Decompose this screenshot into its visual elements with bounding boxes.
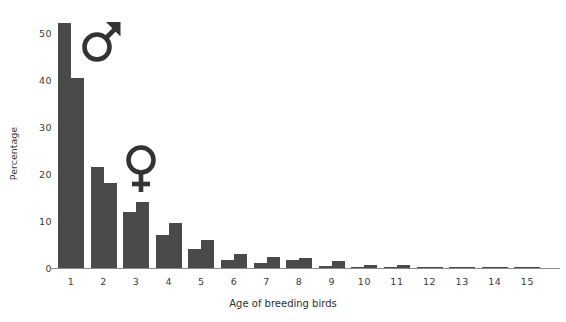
x-axis-tick-label: 11 (380, 276, 414, 287)
mars-symbol-icon (82, 14, 124, 66)
bar-male-age-3 (123, 212, 136, 268)
y-axis-tick-label: 40 (22, 74, 52, 85)
bar-group (221, 14, 247, 268)
x-axis-tick-label: 10 (347, 276, 381, 287)
bar-group (384, 14, 410, 268)
x-axis-tick-label: 9 (315, 276, 349, 287)
bar-male-age-6 (221, 260, 234, 268)
x-axis-tick-label: 15 (510, 276, 544, 287)
x-axis-tick-label: 13 (445, 276, 479, 287)
x-axis-tick-label: 5 (184, 276, 218, 287)
venus-symbol-icon (122, 144, 160, 194)
bar-female-age-7 (267, 257, 280, 268)
y-axis-tick-label: 10 (22, 215, 52, 226)
bar-group (417, 14, 443, 268)
bar-female-age-4 (169, 223, 182, 268)
bar-group (449, 14, 475, 268)
x-axis-tick-label: 8 (282, 276, 316, 287)
chart-container: 01020304050 Percentage 12345678910111213… (0, 0, 566, 322)
bar-group (286, 14, 312, 268)
bar-group (514, 14, 540, 268)
bar-male-age-4 (156, 235, 169, 268)
bar-group (319, 14, 345, 268)
bar-female-age-9 (332, 261, 345, 268)
x-axis-tick-label: 14 (478, 276, 512, 287)
x-axis-tick-label: 2 (87, 276, 121, 287)
plot-area (56, 14, 556, 268)
x-axis-tick-label: 6 (217, 276, 251, 287)
bar-group (482, 14, 508, 268)
y-axis-tick-label: 0 (22, 263, 52, 274)
bar-female-age-2 (104, 183, 117, 268)
bar-male-age-1 (58, 23, 71, 268)
bar-female-age-5 (201, 240, 214, 268)
x-axis-title: Age of breeding birds (0, 298, 566, 309)
y-axis-ticks: 01020304050 (16, 0, 52, 322)
y-axis-tick-label: 30 (22, 121, 52, 132)
bar-group (188, 14, 214, 268)
bar-female-age-3 (136, 202, 149, 268)
bar-male-age-2 (91, 167, 104, 268)
bar-male-age-5 (188, 249, 201, 268)
x-axis-tick-label: 3 (119, 276, 153, 287)
bar-female-age-8 (299, 258, 312, 268)
y-axis-tick-label: 20 (22, 168, 52, 179)
bar-group (254, 14, 280, 268)
bar-group (58, 14, 84, 268)
bar-female-age-1 (71, 78, 84, 268)
x-axis-tick-label: 4 (152, 276, 186, 287)
y-axis-title: Percentage (8, 119, 19, 189)
bar-group (123, 14, 149, 268)
bar-group (351, 14, 377, 268)
bar-group (156, 14, 182, 268)
bar-male-age-8 (286, 260, 299, 268)
bar-female-age-6 (234, 254, 247, 268)
x-axis-line (50, 268, 560, 269)
y-axis-tick-label: 50 (22, 27, 52, 38)
x-axis-tick-label: 1 (54, 276, 88, 287)
x-axis-tick-label: 7 (250, 276, 284, 287)
x-axis-tick-label: 12 (413, 276, 447, 287)
